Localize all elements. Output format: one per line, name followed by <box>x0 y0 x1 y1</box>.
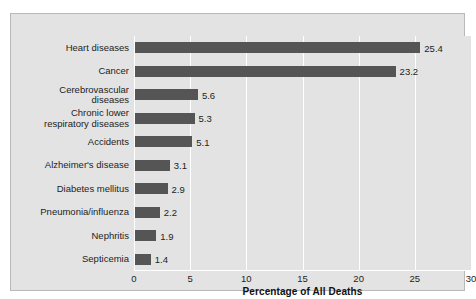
bar-row: Nephritis1.9 <box>11 224 466 248</box>
clipped-caption-text: cardiovascular disease. <box>9 0 209 5</box>
bar-row: Heart diseases25.4 <box>11 36 466 60</box>
category-label: Accidents <box>11 137 129 148</box>
bar <box>135 207 160 218</box>
x-axis-title: Percentage of All Deaths <box>134 286 471 297</box>
category-label: Nephritis <box>11 231 129 242</box>
x-tick-label: 30 <box>466 273 476 284</box>
bar <box>135 183 168 194</box>
bar <box>135 66 396 77</box>
bar-value-label: 1.4 <box>155 254 168 265</box>
category-label: Cerebrovascular diseases <box>11 84 129 105</box>
bar-value-label: 23.2 <box>400 66 419 77</box>
bar-value-label: 2.9 <box>172 183 185 194</box>
bar <box>135 136 192 147</box>
bar <box>135 230 156 241</box>
x-tick-label: 10 <box>241 273 252 284</box>
bar <box>135 89 198 100</box>
category-label: Cancer <box>11 66 129 77</box>
chart-figure-frame: Heart diseases25.4Cancer23.2Cerebrovascu… <box>10 13 465 291</box>
category-label: Septicemia <box>11 254 129 265</box>
x-tick-label: 15 <box>297 273 308 284</box>
x-tick-label: 5 <box>188 273 193 284</box>
bar-row: Cancer23.2 <box>11 60 466 84</box>
bar-row: Diabetes mellitus2.9 <box>11 177 466 201</box>
bar-value-label: 5.3 <box>199 113 212 124</box>
category-label: Chronic lower respiratory diseases <box>11 108 129 129</box>
x-tick-label: 0 <box>131 273 136 284</box>
bar-row: Accidents5.1 <box>11 130 466 154</box>
gridline-30 <box>471 36 472 270</box>
x-tick-label: 25 <box>410 273 421 284</box>
bar-value-label: 2.2 <box>164 207 177 218</box>
bar-row: Cerebrovascular diseases5.6 <box>11 83 466 107</box>
bar <box>135 113 195 124</box>
bar-row: Pneumonia/influenza2.2 <box>11 201 466 225</box>
x-tick-label: 20 <box>353 273 364 284</box>
bar-value-label: 3.1 <box>174 160 187 171</box>
bar-value-label: 1.9 <box>160 230 173 241</box>
bar <box>135 160 170 171</box>
bar-value-label: 25.4 <box>424 42 443 53</box>
category-label: Pneumonia/influenza <box>11 207 129 218</box>
category-label: Heart diseases <box>11 43 129 54</box>
bar <box>135 42 420 53</box>
bar-value-label: 5.1 <box>196 136 209 147</box>
category-label: Alzheimer's disease <box>11 160 129 171</box>
bar-value-label: 5.6 <box>202 89 215 100</box>
category-label: Diabetes mellitus <box>11 184 129 195</box>
bar-row: Alzheimer's disease3.1 <box>11 154 466 178</box>
bar <box>135 254 151 265</box>
bar-row: Chronic lower respiratory diseases5.3 <box>11 107 466 131</box>
bar-row: Septicemia1.4 <box>11 248 466 272</box>
